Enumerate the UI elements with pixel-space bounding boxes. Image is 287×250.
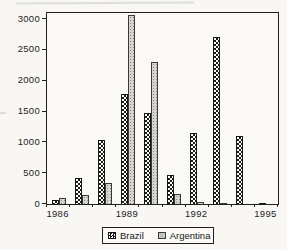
plot-area <box>46 12 279 205</box>
y-axis-tick <box>42 141 46 142</box>
x-axis-tick <box>254 204 255 207</box>
bar-argentina-1992 <box>197 202 204 204</box>
x-axis-tick <box>208 204 209 207</box>
x-axis-tick <box>69 204 70 207</box>
x-axis-tick <box>231 204 232 207</box>
bar-argentina-1987 <box>82 195 89 204</box>
bar-brazil-1990 <box>144 113 151 204</box>
bar-brazil-1986 <box>52 200 59 204</box>
bar-argentina-1990 <box>151 62 158 204</box>
bar-argentina-1993 <box>220 203 227 205</box>
bar-brazil-1995 <box>259 203 266 205</box>
chart-legend: Brazil Argentina <box>102 227 214 244</box>
bar-brazil-1988 <box>98 140 105 204</box>
x-axis-tick-label: 1995 <box>248 208 282 219</box>
bar-argentina-1989 <box>128 15 135 204</box>
x-axis-tick <box>162 204 163 207</box>
legend-label-brazil: Brazil <box>120 230 144 241</box>
y-axis-tick-label: 1000 <box>0 136 40 147</box>
y-axis-tick <box>42 80 46 81</box>
x-axis-tick <box>115 204 116 207</box>
y-axis-tick <box>42 49 46 50</box>
legend-label-argentina: Argentina <box>170 230 211 241</box>
bar-brazil-1992 <box>190 133 197 204</box>
x-axis-tick <box>185 204 186 207</box>
x-axis-tick-label: 1989 <box>110 208 144 219</box>
bar-brazil-1987 <box>75 178 82 204</box>
y-axis-tick <box>42 172 46 173</box>
bar-brazil-1993 <box>213 37 220 204</box>
bar-argentina-1986 <box>59 198 66 204</box>
x-axis-tick <box>46 204 47 207</box>
x-axis-tick <box>92 204 93 207</box>
legend-swatch-argentina-icon <box>158 232 166 239</box>
y-axis-tick <box>42 18 46 19</box>
bar-brazil-1994 <box>236 136 243 204</box>
x-axis-tick-label: 1992 <box>179 208 213 219</box>
y-axis-tick-label: 1500 <box>0 105 40 116</box>
scan-artifact-top <box>16 1 194 4</box>
legend-swatch-brazil-icon <box>108 232 116 239</box>
bar-argentina-1988 <box>105 183 112 204</box>
bar-argentina-1991 <box>174 194 181 204</box>
chart-canvas: 0500100015002000250030001986198919921995… <box>0 0 287 250</box>
y-axis-tick-label: 2500 <box>0 43 40 54</box>
y-axis-tick-label: 2000 <box>0 74 40 85</box>
bar-brazil-1989 <box>121 94 128 204</box>
y-axis-tick-label: 500 <box>0 167 40 178</box>
y-axis-tick <box>42 111 46 112</box>
x-axis-tick <box>138 204 139 207</box>
x-axis-tick-label: 1986 <box>41 208 75 219</box>
y-axis-tick-label: 0 <box>0 198 40 209</box>
y-axis-tick-label: 3000 <box>0 13 40 24</box>
bar-brazil-1991 <box>167 175 174 204</box>
x-axis-tick <box>277 204 278 207</box>
